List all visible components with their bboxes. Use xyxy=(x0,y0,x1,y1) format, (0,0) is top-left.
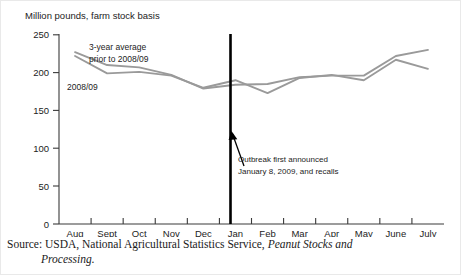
y-tick-label: 100 xyxy=(33,143,49,154)
x-tick-label: Nov xyxy=(163,228,180,237)
outbreak-annotation-line2: January 8, 2009, and recalls xyxy=(238,167,339,176)
x-tick-label: Mar xyxy=(291,228,307,237)
y-tick-label: 150 xyxy=(33,105,49,116)
x-tick-label: Jan xyxy=(228,228,243,237)
line-chart: Million pounds, farm stock basis 250 200… xyxy=(1,1,461,237)
chart-plot-area: Million pounds, farm stock basis 250 200… xyxy=(1,1,461,237)
y-tick-labels: 250 200 150 100 50 0 xyxy=(33,29,49,229)
x-tick-label: May xyxy=(355,228,373,237)
x-tick-label: June xyxy=(386,228,407,237)
x-tick-label: Sept xyxy=(97,228,117,237)
y-tick-label: 0 xyxy=(44,219,49,230)
x-tick-labels: AugSeptOctNovDecJanFebMarAprMayJuneJuly xyxy=(67,228,437,237)
x-tick-label: Oct xyxy=(132,228,147,237)
source-italic: Peanut Stocks and xyxy=(268,238,353,250)
x-tick-label: Feb xyxy=(259,228,275,237)
source-note: Source: USDA, National Agricultural Stat… xyxy=(1,237,461,267)
y-tick-label: 200 xyxy=(33,67,49,78)
x-tick-label: July xyxy=(420,228,437,237)
source-italic-line2: Processing. xyxy=(7,252,456,267)
x-tick-label: Aug xyxy=(67,228,84,237)
source-lead: Source: USDA, National Agricultural Stat… xyxy=(7,238,268,250)
y-tick-label: 250 xyxy=(33,29,49,40)
chart-title: Million pounds, farm stock basis xyxy=(25,10,160,21)
series-label-average-line1: 3-year average xyxy=(89,42,146,52)
x-tick-label: Dec xyxy=(195,228,212,237)
y-tick-marks xyxy=(53,35,59,224)
figure-container: Million pounds, farm stock basis 250 200… xyxy=(0,0,461,275)
outbreak-annotation-line1: Outbreak first announced xyxy=(238,155,328,164)
series-label-average-line2: prior to 2008/09 xyxy=(89,54,149,64)
x-tick-marks xyxy=(91,218,412,224)
series-label-current: 2008/09 xyxy=(67,82,98,92)
x-tick-label: Apr xyxy=(324,228,339,237)
y-tick-label: 50 xyxy=(38,181,49,192)
